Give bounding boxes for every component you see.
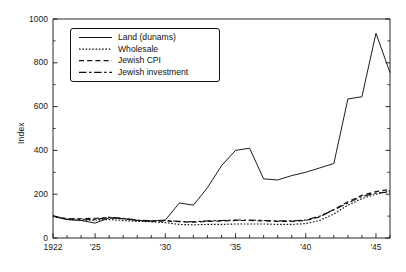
x-tick-label: '25	[75, 242, 115, 252]
chart-figure: Index 02004006008001000 1922'25'30'35'40…	[0, 0, 406, 272]
legend-land-label: Land (dunams)	[118, 32, 176, 42]
x-tick-label: '30	[145, 242, 185, 252]
y-tick-label: 0	[20, 233, 48, 243]
legend-wholesale-label: Wholesale	[118, 44, 158, 54]
series-line-3	[53, 192, 390, 222]
legend-jewish-investment-label: Jewish investment	[118, 67, 188, 77]
x-tick-label: '45	[356, 242, 396, 252]
y-tick-label: 200	[20, 189, 48, 199]
y-tick-label: 600	[20, 101, 48, 111]
y-tick-label: 800	[20, 57, 48, 67]
legend-jewish-cpi-label: Jewish CPI	[118, 55, 161, 65]
series-line-2	[53, 189, 390, 222]
y-axis-label: Index	[16, 122, 26, 144]
x-tick-label: '35	[216, 242, 256, 252]
x-tick-label: '40	[286, 242, 326, 252]
y-tick-label: 1000	[20, 14, 48, 24]
y-tick-label: 400	[20, 145, 48, 155]
series-line-1	[53, 191, 390, 225]
x-tick-label: 1922	[33, 242, 73, 252]
